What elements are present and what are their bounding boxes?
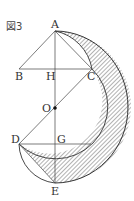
- label-h: H: [46, 70, 56, 83]
- shaded-crescent: [19, 31, 131, 183]
- label-o: O: [42, 102, 51, 115]
- geometry-figure: 図3 A B H C O D G E: [0, 0, 134, 201]
- center-point-o: [53, 106, 57, 110]
- label-b: B: [15, 70, 23, 83]
- label-g: G: [57, 133, 66, 146]
- label-a: A: [50, 18, 60, 31]
- label-d: D: [11, 133, 20, 146]
- label-e: E: [51, 185, 59, 198]
- label-c: C: [87, 70, 95, 83]
- figure-title: 図3: [6, 21, 22, 32]
- segment-ab: [19, 31, 55, 69]
